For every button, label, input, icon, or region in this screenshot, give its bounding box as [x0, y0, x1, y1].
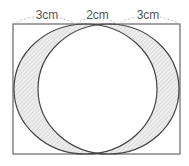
- two-overlapping-circles-diagram: 3cm 2cm 3cm: [0, 0, 189, 166]
- right-shaded-crescent: [38, 24, 179, 154]
- label-left-width: 3cm: [36, 8, 59, 22]
- label-right-width: 3cm: [137, 8, 160, 22]
- label-middle-width: 2cm: [86, 8, 109, 22]
